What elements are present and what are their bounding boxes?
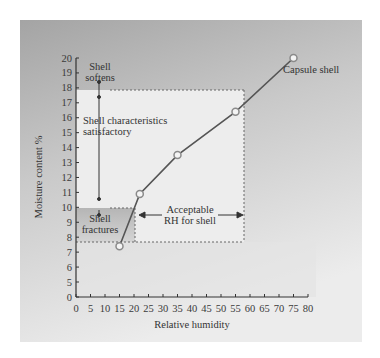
y-tick-label: 10: [62, 202, 73, 213]
lower-region: [76, 242, 316, 297]
data-point-marker: [174, 152, 181, 159]
x-tick-label: 50: [216, 303, 227, 314]
y-tick-label: 5: [67, 277, 72, 288]
x-tick-label: 70: [274, 303, 285, 314]
x-tick-label: 10: [100, 303, 111, 314]
y-tick-label: 8: [67, 232, 72, 243]
x-axis-title: Relative humidity: [154, 319, 230, 330]
x-tick-label: 5: [88, 303, 93, 314]
satisfactory-label-2: satisfactory: [83, 126, 132, 137]
x-tick-label: 20: [129, 303, 140, 314]
data-point-marker: [232, 108, 239, 115]
x-tick-label: 75: [288, 303, 299, 314]
moisture-vs-rh-chart: 0567891011121314151617181920 05101520253…: [0, 0, 380, 358]
y-tick-label: 15: [62, 127, 73, 138]
x-tick-label: 55: [230, 303, 241, 314]
series-label: Capsule shell: [283, 64, 339, 75]
y-tick-label: 11: [62, 187, 72, 198]
y-tick-label: 13: [62, 157, 73, 168]
x-tick-label: 30: [158, 303, 169, 314]
x-tick-label: 65: [259, 303, 270, 314]
y-tick-label: 12: [62, 172, 73, 183]
shell-softens-label-1: Shell: [89, 61, 111, 72]
fractures-label-1: Shell: [89, 213, 111, 224]
satisfactory-label-1: Shell characteristics: [83, 115, 167, 126]
acceptable-label-1: Acceptable: [166, 204, 214, 215]
x-tick-label: 35: [172, 303, 183, 314]
data-point-marker: [290, 55, 297, 62]
x-tick-label: 80: [303, 303, 314, 314]
data-point-marker: [136, 190, 143, 197]
acceptable-label-2: RH for shell: [164, 215, 216, 226]
y-tick-label: 19: [62, 67, 73, 78]
y-tick-label: 14: [62, 142, 73, 153]
shell-softens-label-2: softens: [85, 72, 115, 83]
x-tick-label: 40: [187, 303, 198, 314]
data-point-marker: [116, 243, 123, 250]
y-tick-label: 7: [67, 247, 72, 258]
x-tick-label: 60: [245, 303, 256, 314]
y-tick-label: 0: [67, 292, 72, 303]
y-tick-label: 17: [62, 97, 73, 108]
y-tick-label: 16: [62, 112, 73, 123]
fractures-label-2: fractures: [82, 224, 119, 235]
y-tick-label: 9: [67, 217, 72, 228]
y-axis-title: Moisture content %: [33, 135, 44, 218]
y-tick-label: 6: [67, 262, 72, 273]
x-tick-label: 0: [73, 303, 78, 314]
y-tick-label: 20: [62, 53, 73, 64]
y-tick-label: 18: [62, 82, 73, 93]
x-tick-label: 15: [114, 303, 125, 314]
x-tick-label: 45: [201, 303, 212, 314]
x-tick-label: 25: [143, 303, 154, 314]
